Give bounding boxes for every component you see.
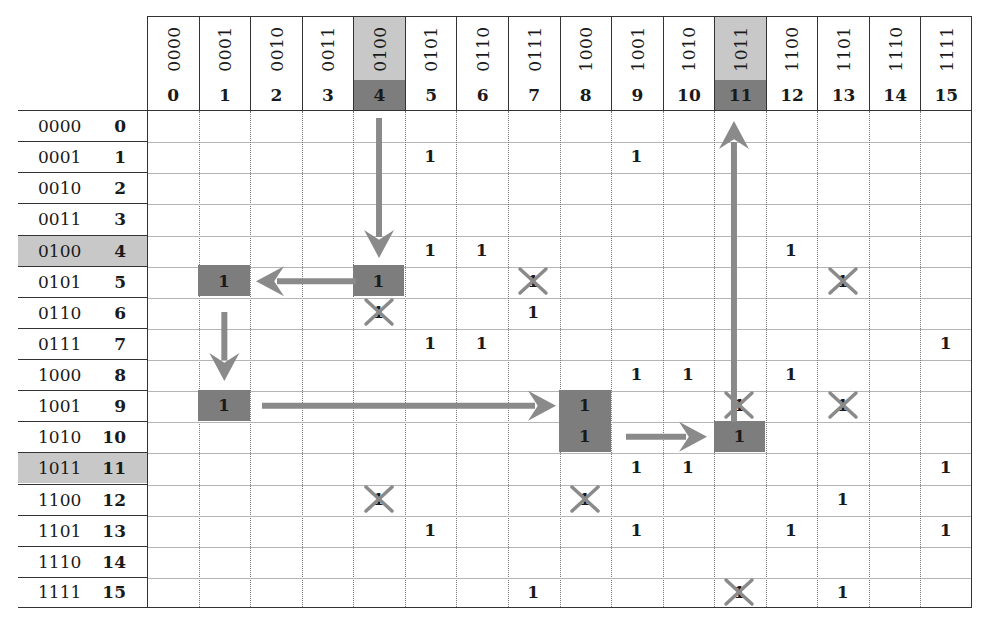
column-binary-label: 0001 <box>215 26 235 71</box>
cell-value: 1 <box>476 333 488 353</box>
column-decimal-label: 9 <box>612 80 663 110</box>
column-header-1: 00011 <box>199 16 251 110</box>
row-decimal-label: 4 <box>90 241 126 261</box>
matrix-cell: 1 <box>507 576 559 607</box>
column-binary-label: 0100 <box>370 26 390 71</box>
cross-out-icon <box>722 577 756 607</box>
row-binary-label: 0011 <box>18 209 90 229</box>
row-binary-label: 0110 <box>18 303 90 323</box>
column-header-12: 110012 <box>766 16 818 110</box>
column-binary-label: 0111 <box>524 26 544 71</box>
selected-cell: 1 <box>714 421 766 452</box>
cell-value: 1 <box>579 395 591 415</box>
cross-out-icon <box>362 484 396 514</box>
column-binary-label: 1011 <box>730 26 750 71</box>
grid-row-divider <box>148 516 971 517</box>
cell-value: 1 <box>940 520 952 540</box>
row-binary-label: 0101 <box>18 272 90 292</box>
column-binary-label: 0010 <box>266 26 286 71</box>
matrix-cell: 1 <box>765 359 817 390</box>
grid-column-divider <box>250 111 251 607</box>
cell-value: 1 <box>837 489 849 509</box>
grid-column-divider <box>560 111 561 607</box>
row-binary-label: 1011 <box>18 458 90 478</box>
crossed-cell: 1 <box>817 390 869 421</box>
column-decimal-label: 3 <box>303 80 354 110</box>
matrix-cell: 1 <box>404 514 456 545</box>
cell-value: 1 <box>785 240 797 260</box>
crossed-cell: 1 <box>817 265 869 296</box>
row-decimal-label: 13 <box>90 521 126 541</box>
grid-column-divider <box>508 111 509 607</box>
cell-value: 1 <box>527 582 539 602</box>
column-header-9: 10019 <box>611 16 663 110</box>
column-decimal-label: 1 <box>200 80 251 110</box>
row-binary-label: 0111 <box>18 334 90 354</box>
cell-value: 1 <box>424 520 436 540</box>
grid-column-divider <box>456 111 457 607</box>
matrix-cell: 1 <box>765 234 817 265</box>
column-binary-label: 0101 <box>421 26 441 71</box>
row-header-12: 110012 <box>18 484 147 515</box>
row-decimal-label: 2 <box>90 178 126 198</box>
cell-value: 1 <box>682 364 694 384</box>
cell-value: 1 <box>940 333 952 353</box>
matrix-cell: 1 <box>611 452 663 483</box>
cell-value: 1 <box>630 364 642 384</box>
row-header-2: 00102 <box>18 172 147 203</box>
cell-value: 1 <box>476 240 488 260</box>
matrix-cell: 1 <box>456 234 508 265</box>
row-header-1: 00011 <box>18 141 147 172</box>
row-header-11: 101111 <box>18 452 147 483</box>
row-header-9: 10019 <box>18 390 147 421</box>
row-binary-label: 0001 <box>18 147 90 167</box>
matrix-cell: 1 <box>920 452 972 483</box>
row-decimal-label: 0 <box>90 116 126 136</box>
cross-out-icon <box>826 390 860 420</box>
row-decimal-label: 11 <box>90 458 126 478</box>
column-decimal-label: 12 <box>767 80 818 110</box>
column-decimal-label: 2 <box>251 80 302 110</box>
column-decimal-label: 13 <box>818 80 869 110</box>
row-header-7: 01117 <box>18 328 147 359</box>
selected-cell: 1 <box>353 265 405 296</box>
crossed-cell: 1 <box>353 296 405 327</box>
row-binary-label: 0000 <box>18 116 90 136</box>
crossed-cell: 1 <box>559 483 611 514</box>
crossed-cell: 1 <box>714 390 766 421</box>
row-decimal-label: 7 <box>90 334 126 354</box>
column-decimal-label: 14 <box>870 80 921 110</box>
cell-value: 1 <box>837 582 849 602</box>
column-binary-label: 1111 <box>936 26 956 71</box>
row-header-10: 101010 <box>18 421 147 452</box>
row-decimal-label: 3 <box>90 209 126 229</box>
matrix-cell: 1 <box>404 141 456 172</box>
column-binary-label: 1101 <box>834 26 854 71</box>
row-header-8: 10008 <box>18 359 147 390</box>
matrix-cell: 1 <box>611 514 663 545</box>
cell-value: 1 <box>424 240 436 260</box>
selected-cell: 1 <box>198 265 250 296</box>
cross-out-icon <box>568 484 602 514</box>
row-binary-label: 1101 <box>18 521 90 541</box>
cross-out-icon <box>362 297 396 327</box>
cell-value: 1 <box>785 364 797 384</box>
grid-column-divider <box>817 111 818 607</box>
row-header-5: 01015 <box>18 266 147 297</box>
row-decimal-label: 5 <box>90 272 126 292</box>
row-decimal-label: 6 <box>90 303 126 323</box>
cell-value: 1 <box>630 457 642 477</box>
row-header-15: 111115 <box>18 577 147 608</box>
row-decimal-label: 10 <box>90 427 126 447</box>
row-decimal-label: 1 <box>90 147 126 167</box>
cross-out-icon <box>722 390 756 420</box>
matrix-cell: 1 <box>507 296 559 327</box>
matrix-cell: 1 <box>662 452 714 483</box>
cross-out-icon <box>826 266 860 296</box>
matrix-cell: 1 <box>920 514 972 545</box>
row-header-4: 01004 <box>18 235 147 266</box>
matrix-cell: 1 <box>920 327 972 358</box>
matrix-cell: 1 <box>611 359 663 390</box>
column-header-10: 101010 <box>663 16 715 110</box>
row-decimal-label: 9 <box>90 396 126 416</box>
